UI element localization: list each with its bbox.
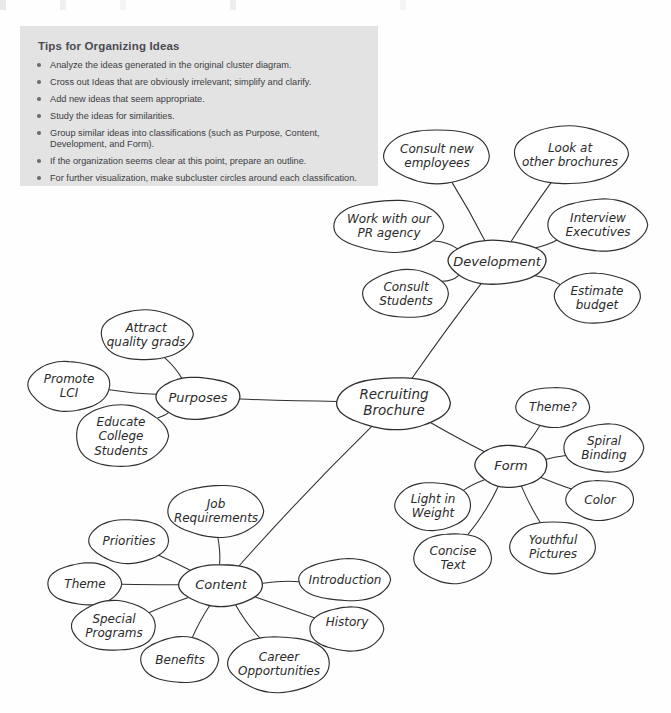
node-label: History	[326, 614, 370, 628]
diagram-node-estimate-budget[interactable]: Estimatebudget	[554, 273, 640, 323]
node-label: Development	[453, 254, 541, 269]
diagram-node-priorities[interactable]: Priorities	[89, 520, 169, 564]
node-label: InterviewExecutives	[565, 210, 630, 239]
edge-content-to-job-requirements	[218, 537, 220, 564]
diagram-node-theme[interactable]: Theme	[48, 563, 122, 605]
diagram-node-purposes[interactable]: Purposes	[156, 377, 240, 419]
edge-content-to-career-opportunities	[236, 605, 260, 638]
edge-development-to-consult-students	[442, 276, 458, 282]
diagram-node-history[interactable]: History	[310, 607, 384, 651]
diagram-nodes: Consult newemployeesLook atother brochur…	[28, 126, 648, 693]
cluster-diagram: Consult newemployeesLook atother brochur…	[0, 0, 671, 713]
diagram-node-introduction[interactable]: Introduction	[299, 559, 391, 601]
edge-purposes-to-promote-lci	[110, 390, 157, 394]
edge-content-to-history	[255, 597, 315, 618]
diagram-node-youthful-pictures[interactable]: YouthfulPictures	[510, 522, 596, 574]
node-label: YouthfulPictures	[529, 532, 578, 561]
edge-development-to-interview-executives	[535, 240, 557, 248]
cluster-diagram-canvas: Consult newemployeesLook atother brochur…	[0, 0, 671, 713]
node-label: RecruitingBrochure	[359, 386, 429, 418]
edge-content-to-introduction	[263, 581, 299, 583]
diagram-node-look-at-other-brochures[interactable]: Look atother brochures	[514, 126, 628, 184]
node-label: SpecialPrograms	[85, 611, 142, 640]
node-label: Theme?	[529, 400, 577, 414]
diagram-node-color[interactable]: Color	[566, 481, 634, 521]
edge-purposes-to-attract-quality-grads	[165, 358, 182, 379]
edge-development-to-consult-new-employees	[452, 182, 485, 241]
edge-development-to-look-at-other-brochures	[511, 182, 551, 241]
edge-form-to-youthful-pictures	[521, 486, 540, 522]
diagram-node-form[interactable]: Form	[475, 445, 547, 487]
diagram-node-light-in-weight[interactable]: Light inWeight	[395, 483, 471, 531]
node-label: Light inWeight	[411, 491, 456, 520]
edge-form-to-light-in-weight	[463, 480, 485, 491]
diagram-node-theme-q[interactable]: Theme?	[516, 388, 590, 428]
edge-content-to-special-programs	[149, 598, 187, 613]
node-label: Color	[584, 493, 616, 507]
edge-form-to-theme-q	[525, 426, 540, 447]
edge-center-to-content	[239, 427, 371, 566]
diagram-node-promote-lci[interactable]: PromoteLCI	[28, 361, 110, 411]
edge-form-to-spiral-binding	[545, 455, 566, 459]
diagram-node-interview-executives[interactable]: InterviewExecutives	[548, 199, 648, 251]
edge-form-to-color	[541, 478, 571, 490]
diagram-node-development[interactable]: Development	[448, 240, 546, 284]
edge-purposes-to-educate-college-students	[158, 413, 168, 418]
node-label: Introduction	[309, 573, 382, 587]
node-label: Theme	[64, 577, 105, 591]
diagram-node-spiral-binding[interactable]: SpiralBinding	[564, 424, 644, 472]
node-label: Benefits	[155, 653, 204, 667]
node-label: Priorities	[103, 534, 156, 548]
node-label: SpiralBinding	[581, 433, 627, 462]
scanned-page: Tips for Organizing Ideas Analyze the id…	[0, 0, 671, 713]
diagram-node-content[interactable]: Content	[179, 565, 263, 607]
diagram-node-career-opportunities[interactable]: CareerOpportunities	[228, 637, 330, 693]
edge-content-to-benefits	[192, 605, 210, 638]
diagram-node-work-with-our-pr-agency[interactable]: Work with ourPR agency	[334, 200, 444, 252]
node-label: Consult newemployees	[400, 141, 474, 170]
edge-center-to-purposes	[240, 399, 337, 401]
diagram-node-benefits[interactable]: Benefits	[141, 637, 219, 683]
edge-center-to-form	[431, 423, 485, 452]
diagram-node-concise-text[interactable]: ConciseText	[414, 534, 492, 584]
node-label: Estimatebudget	[570, 283, 623, 312]
node-label: Content	[195, 577, 248, 592]
edge-development-to-work-with-our-pr-agency	[434, 241, 458, 249]
node-label: Purposes	[168, 390, 227, 405]
node-label: EducateCollegeStudents	[94, 414, 148, 457]
diagram-node-consult-students[interactable]: ConsultStudents	[363, 269, 449, 317]
diagram-node-special-programs[interactable]: SpecialPrograms	[72, 600, 156, 650]
node-label: Work with ourPR agency	[347, 211, 432, 240]
diagram-node-job-requirements[interactable]: JobRequirements	[168, 485, 264, 537]
diagram-node-consult-new-employees[interactable]: Consult newemployees	[384, 130, 490, 184]
node-label: Form	[494, 458, 527, 473]
edge-form-to-concise-text	[468, 486, 499, 535]
diagram-node-educate-college-students[interactable]: EducateCollegeStudents	[77, 405, 169, 467]
edge-development-to-estimate-budget	[535, 276, 560, 285]
diagram-node-center[interactable]: RecruitingBrochure	[337, 378, 451, 430]
diagram-node-attract-quality-grads[interactable]: Attractquality grads	[101, 310, 193, 360]
node-label: ConsultStudents	[379, 279, 433, 308]
edge-content-to-priorities	[159, 555, 190, 570]
